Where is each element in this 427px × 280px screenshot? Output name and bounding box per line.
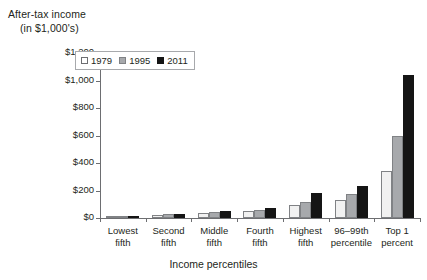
- bar-2011: [311, 193, 322, 218]
- bar-2011: [357, 186, 368, 218]
- legend-label-2011: 2011: [167, 55, 187, 66]
- bar-2011: [128, 216, 139, 218]
- bar-group: [329, 53, 375, 218]
- y-axis-title-line-2: (in $1,000's): [8, 22, 86, 36]
- bar-2011: [265, 208, 276, 218]
- legend-item: 1995: [119, 55, 150, 66]
- x-axis-category-label: 96–99th percentile: [329, 225, 375, 248]
- x-axis-category-label: Middle fifth: [191, 225, 237, 248]
- bar-1979: [198, 213, 209, 218]
- x-axis-tick-mark: [191, 218, 192, 222]
- legend-swatch-2011-icon: [157, 57, 164, 64]
- bar-1979: [289, 205, 300, 218]
- bar-1995: [300, 202, 311, 219]
- x-axis-category-label: Top 1 percent: [374, 225, 420, 248]
- bar-1979: [152, 215, 163, 218]
- legend-swatch-1979-icon: [81, 57, 88, 64]
- x-axis-tick-mark: [237, 218, 238, 222]
- bar-1995: [163, 214, 174, 218]
- x-axis-category-label: Lowest fifth: [100, 225, 146, 248]
- y-axis-title: After-tax income(in $1,000's): [8, 8, 86, 35]
- x-axis-tick-mark: [329, 218, 330, 222]
- y-axis-tick-label: $200: [73, 184, 94, 195]
- bar-group: [237, 53, 283, 218]
- bar-group: [146, 53, 192, 218]
- x-axis-tick-mark: [283, 218, 284, 222]
- x-axis-tick-mark: [146, 218, 147, 222]
- legend-label-1995: 1995: [129, 55, 150, 66]
- y-axis-tick-label: $600: [73, 129, 94, 140]
- plot-area: $0$200$400$600$800$1,000$1,200 Lowest fi…: [100, 53, 420, 218]
- legend-swatch-1995-icon: [119, 57, 126, 64]
- bar-group: [374, 53, 420, 218]
- legend-item: 2011: [157, 55, 187, 66]
- bar-1995: [209, 212, 220, 218]
- x-axis-category-label: Fourth fifth: [237, 225, 283, 248]
- legend-label-1979: 1979: [91, 55, 112, 66]
- x-axis-tick-mark: [374, 218, 375, 222]
- bar-1979: [335, 200, 346, 218]
- x-axis-category-label: Second fifth: [146, 225, 192, 248]
- bar-2011: [220, 211, 231, 218]
- legend: 1979 1995 2011: [75, 51, 195, 70]
- bar-1979: [243, 211, 254, 218]
- bar-chart-figure: After-tax income(in $1,000's) $0$200$400…: [0, 0, 427, 280]
- y-axis-tick-label: $0: [83, 211, 94, 222]
- y-axis-tick-label: $800: [73, 101, 94, 112]
- y-axis-tick-label: $1,000: [65, 74, 94, 85]
- x-axis-category-label: Highest fifth: [283, 225, 329, 248]
- x-axis-tick-mark: [420, 218, 421, 222]
- x-axis-tick-mark: [100, 218, 101, 222]
- bar-2011: [174, 214, 185, 218]
- bar-group: [100, 53, 146, 218]
- bar-1979: [106, 216, 117, 218]
- bar-1979: [381, 171, 392, 218]
- x-axis-line: [100, 218, 420, 219]
- bar-group: [191, 53, 237, 218]
- bar-1995: [392, 136, 403, 219]
- bar-1995: [254, 210, 265, 218]
- x-axis-title: Income percentiles: [0, 258, 427, 270]
- bar-1995: [346, 194, 357, 218]
- bar-2011: [403, 75, 414, 218]
- y-axis-tick-label: $400: [73, 156, 94, 167]
- y-axis-title-line-1: After-tax income: [8, 8, 86, 20]
- legend-item: 1979: [81, 55, 112, 66]
- bar-1995: [117, 216, 128, 218]
- bar-group: [283, 53, 329, 218]
